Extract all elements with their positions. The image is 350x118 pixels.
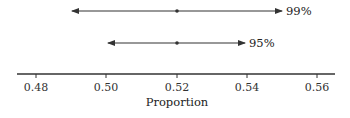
- interval-99-center-point: [175, 9, 179, 13]
- interval-95-center-point: [175, 41, 179, 45]
- interval-99-label: 99%: [286, 4, 312, 18]
- x-axis: 0.48 0.50 0.52 0.54 0.56 Proportion: [17, 74, 335, 109]
- interval-95: 95%: [108, 36, 275, 50]
- x-tick-label: 0.50: [94, 81, 119, 94]
- x-axis-title: Proportion: [146, 95, 209, 109]
- interval-99: 99%: [72, 4, 312, 18]
- x-tick-label: 0.56: [305, 81, 330, 94]
- x-tick-label: 0.52: [165, 81, 190, 94]
- x-tick-label: 0.48: [24, 81, 49, 94]
- x-tick-label: 0.54: [235, 81, 260, 94]
- interval-95-label: 95%: [249, 36, 275, 50]
- confidence-interval-chart: 99% 95% 0.48 0.50 0.52 0.54 0.56 Proport…: [0, 0, 350, 118]
